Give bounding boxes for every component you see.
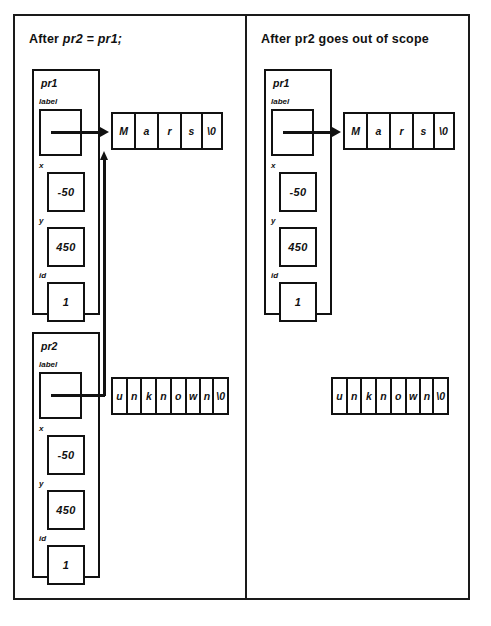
field-label-pr2-x: x	[39, 424, 43, 433]
pointer-arrowhead-pr1-right-to-mars	[332, 127, 341, 137]
char-cell: k	[362, 379, 377, 413]
slot-pr1-y-value: 450	[56, 241, 75, 253]
slot-pr1-right-x-value: -50	[290, 186, 307, 198]
slot-pr1-id-value: 1	[63, 296, 69, 308]
char-cell: n	[348, 379, 363, 413]
char-array-unknown-right: u n k n o w n \0	[331, 377, 449, 415]
panel-right-title-prefix: After pr2 goes out of scope	[261, 32, 429, 46]
char-cell: w	[187, 379, 202, 413]
slot-pr1-x: -50	[47, 172, 85, 212]
pointer-line-pr2-vertical	[103, 159, 106, 396]
pointer-line-pr2-horizontal	[51, 394, 105, 397]
struct-pr2-name: pr2	[41, 340, 57, 352]
slot-pr2-y-value: 450	[56, 504, 75, 516]
char-cell: M	[113, 114, 136, 148]
char-cell: u	[113, 379, 128, 413]
field-label-pr1-id: id	[39, 271, 46, 280]
struct-pr1-right-name: pr1	[273, 77, 289, 89]
slot-pr1-id: 1	[47, 282, 85, 322]
char-cell: \0	[435, 114, 452, 148]
char-cell: w	[407, 379, 422, 413]
char-array-mars-right: M a r s \0	[343, 112, 455, 150]
char-cell: \0	[203, 114, 220, 148]
char-cell: r	[391, 114, 414, 148]
slot-pr2-id: 1	[47, 545, 85, 585]
slot-pr1-right-id-value: 1	[295, 296, 301, 308]
char-cell: M	[345, 114, 368, 148]
panel-left-title-code: pr2 = pr1;	[63, 32, 122, 46]
field-label-pr1-y: y	[39, 216, 43, 225]
char-cell: a	[368, 114, 391, 148]
pointer-arrowhead-pr1-to-mars	[100, 127, 109, 137]
field-label-pr1-right-x: x	[271, 161, 275, 170]
char-cell: o	[172, 379, 187, 413]
char-cell: n	[128, 379, 143, 413]
char-cell: \0	[214, 379, 227, 413]
char-array-mars: M a r s \0	[111, 112, 223, 150]
slot-pr1-y: 450	[47, 227, 85, 267]
slot-pr1-right-id: 1	[279, 282, 317, 322]
char-cell: n	[157, 379, 172, 413]
slot-pr1-right-y-value: 450	[288, 241, 307, 253]
char-cell: r	[159, 114, 182, 148]
field-label-pr1-right-label: label	[271, 97, 289, 106]
char-cell: n	[377, 379, 392, 413]
char-cell: a	[136, 114, 159, 148]
field-label-pr2-id: id	[39, 534, 46, 543]
field-label-pr1-right-y: y	[271, 216, 275, 225]
slot-pr2-id-value: 1	[63, 559, 69, 571]
field-label-pr2-label: label	[39, 360, 57, 369]
char-cell: s	[414, 114, 435, 148]
char-cell: k	[142, 379, 157, 413]
slot-pr2-x-value: -50	[58, 449, 75, 461]
pointer-line-pr1-to-mars	[51, 131, 101, 134]
field-label-pr1-x: x	[39, 161, 43, 170]
slot-pr2-x: -50	[47, 435, 85, 475]
slot-pr1-x-value: -50	[58, 186, 75, 198]
char-cell: s	[182, 114, 203, 148]
slot-pr1-right-x: -50	[279, 172, 317, 212]
pointer-line-pr1-right-to-mars	[283, 131, 333, 134]
panel-left-title: After pr2 = pr1;	[29, 32, 122, 46]
pointer-arrowhead-pr2-to-mars	[100, 151, 108, 160]
slot-pr2-y: 450	[47, 490, 85, 530]
field-label-pr2-y: y	[39, 479, 43, 488]
slot-pr1-right-y: 450	[279, 227, 317, 267]
char-cell: o	[392, 379, 407, 413]
panel-right: After pr2 goes out of scope pr1 label x …	[247, 16, 468, 598]
struct-pr1-name: pr1	[41, 77, 57, 89]
char-array-unknown: u n k n o w n \0	[111, 377, 229, 415]
char-cell: n	[201, 379, 214, 413]
char-cell: \0	[434, 379, 447, 413]
char-cell: u	[333, 379, 348, 413]
panel-left: After pr2 = pr1; pr1 label x -50 y 450 i…	[15, 16, 243, 598]
char-cell: n	[421, 379, 434, 413]
field-label-pr1-label: label	[39, 97, 57, 106]
panel-right-title: After pr2 goes out of scope	[261, 32, 429, 46]
panel-left-title-prefix: After	[29, 32, 63, 46]
field-label-pr1-right-id: id	[271, 271, 278, 280]
diagram-frame: After pr2 = pr1; pr1 label x -50 y 450 i…	[13, 14, 470, 600]
